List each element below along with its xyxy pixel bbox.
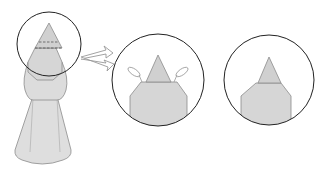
full-model-figure [15, 12, 81, 164]
detail1-head [130, 82, 187, 140]
detail2-head [241, 83, 291, 140]
model-skirt [15, 96, 71, 164]
model-cone [35, 23, 62, 48]
origami-diagram [0, 0, 325, 179]
detail1-cone [146, 55, 171, 82]
detail-step-2 [224, 35, 314, 140]
detail-step-1 [112, 34, 204, 140]
left-flap [127, 66, 142, 79]
detail2-cone [258, 57, 281, 83]
arrow-icon [81, 46, 114, 71]
right-flap [175, 66, 190, 79]
